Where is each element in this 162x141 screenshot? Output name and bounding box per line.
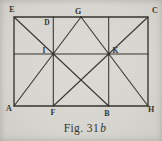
vertex-label-k: K xyxy=(113,46,119,55)
vertex-label-e: E xyxy=(9,5,14,14)
rectangle-outline xyxy=(14,17,148,106)
intersection-dots xyxy=(52,16,110,55)
vertex-label-f: F xyxy=(51,108,56,117)
scanned-book-page: E D G C A F B H I K Fig. 31b xyxy=(0,0,162,141)
vertex-labels: E D G C A F B H I K xyxy=(6,5,158,118)
dot-point-k xyxy=(107,53,110,56)
diagonal-c-f xyxy=(53,17,148,106)
figure-caption: Fig. 31b xyxy=(64,122,107,135)
vertex-label-a: A xyxy=(6,104,12,113)
dot-point-g xyxy=(80,16,82,18)
vertex-label-h: H xyxy=(148,105,155,114)
vertex-label-d: D xyxy=(44,18,50,27)
figure-caption-suffix: b xyxy=(100,122,106,134)
figure-caption-prefix: Fig. 31 xyxy=(64,122,99,135)
vertex-label-b: B xyxy=(104,109,110,118)
figure-31b-diagram: E D G C A F B H I K Fig. 31b xyxy=(0,0,162,141)
vertex-label-g: G xyxy=(75,7,81,16)
vertex-label-c: C xyxy=(152,6,158,15)
vertex-label-i: I xyxy=(43,46,46,55)
diagonal-g-a xyxy=(14,17,81,106)
diagonal-g-h xyxy=(81,17,148,106)
diagram-line-work xyxy=(14,17,148,106)
diagonal-e-b xyxy=(14,17,109,106)
dot-point-i xyxy=(52,53,55,56)
